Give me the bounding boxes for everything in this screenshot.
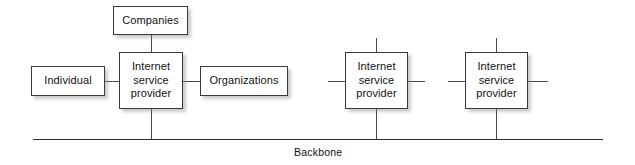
connector-isp-2-stub-right [408, 81, 425, 82]
connector-companies-to-isp-center [151, 35, 152, 52]
network-diagram-canvas: Backbone CompaniesIndividualInternet ser… [0, 0, 635, 165]
connector-isp-center-to-backbone [151, 109, 152, 139]
connector-isp-3-stub-up [496, 38, 497, 52]
node-organizations[interactable]: Organizations [200, 66, 288, 96]
node-label-individual: Individual [41, 74, 94, 88]
node-isp-3[interactable]: Internet service provider [465, 52, 528, 109]
connector-isp-2-stub-up [376, 38, 377, 52]
connector-isp-3-stub-right [528, 81, 548, 82]
node-individual[interactable]: Individual [31, 66, 105, 96]
node-label-companies: Companies [119, 14, 182, 28]
node-label-isp-2: Internet service provider [353, 60, 400, 101]
connector-isp-center-to-organizations [183, 81, 200, 82]
connector-individual-to-isp-center [105, 81, 119, 82]
connector-isp-2-stub-left [328, 81, 345, 82]
backbone-line [33, 139, 603, 140]
node-label-isp-3: Internet service provider [473, 60, 520, 101]
connector-isp-3-to-backbone [496, 109, 497, 139]
node-label-organizations: Organizations [206, 74, 281, 88]
connector-isp-2-to-backbone [376, 109, 377, 139]
connector-isp-3-stub-left [448, 81, 465, 82]
node-label-isp-center: Internet service provider [128, 60, 175, 101]
node-companies[interactable]: Companies [113, 6, 188, 35]
backbone-label: Backbone [294, 146, 342, 158]
node-isp-2[interactable]: Internet service provider [345, 52, 408, 109]
node-isp-center[interactable]: Internet service provider [119, 52, 183, 109]
